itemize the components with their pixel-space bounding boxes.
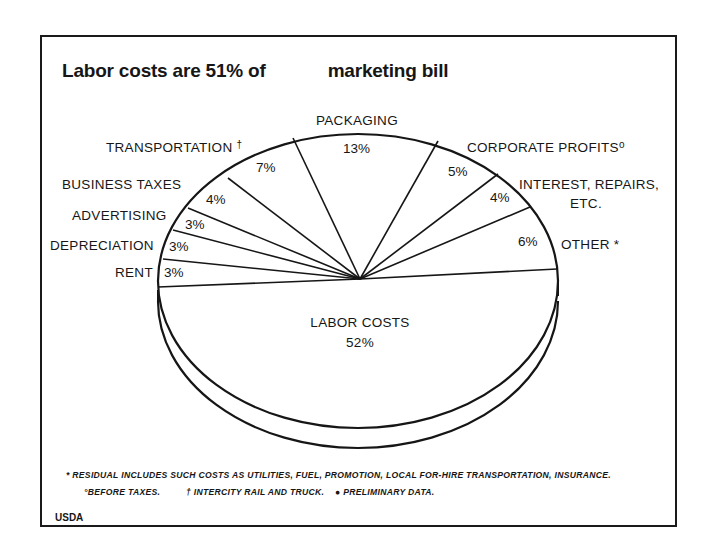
pct-advertising: 3% [185, 217, 205, 233]
pct-transportation: 7% [256, 160, 276, 176]
label-other-text: OTHER [561, 237, 610, 252]
pct-rent: 3% [164, 265, 184, 281]
label-labor-costs-text: LABOR COSTS [290, 313, 430, 333]
pct-other: 6% [518, 234, 538, 250]
pct-packaging: 13% [343, 141, 370, 157]
pct-interest: 4% [490, 190, 510, 206]
label-packaging: PACKAGING [316, 113, 398, 129]
pct-labor-costs: 52% [290, 333, 430, 353]
footnote-residual: * RESIDUAL INCLUDES SUCH COSTS AS UTILIT… [66, 470, 611, 480]
footnote-preliminary: ● PRELIMINARY DATA. [335, 487, 435, 497]
source-label: USDA [55, 512, 83, 523]
pie-top-face [158, 134, 558, 428]
pct-business-taxes: 4% [206, 192, 226, 208]
label-depreciation: DEPRECIATION [50, 238, 154, 254]
footnote-intercity: † INTERCITY RAIL AND TRUCK. [186, 487, 324, 497]
pct-depreciation: 3% [169, 239, 189, 255]
label-corporate-profits: CORPORATE PROFITSo [467, 137, 625, 156]
label-labor-costs: LABOR COSTS 52% [290, 313, 430, 353]
asterisk-mark-icon: * [614, 237, 620, 252]
label-corporate-profits-text: CORPORATE PROFITS [467, 140, 619, 155]
footnote-before-taxes: °BEFORE TAXES. [84, 487, 160, 497]
label-advertising: ADVERTISING [72, 208, 167, 224]
pct-corporate-profits: 5% [448, 164, 468, 180]
label-other: OTHER * [561, 237, 619, 253]
degree-mark-icon: o [619, 139, 625, 150]
label-interest-etc: ETC. [570, 196, 602, 212]
label-rent: RENT [115, 265, 153, 281]
label-interest-repairs: INTEREST, REPAIRS, [519, 177, 659, 193]
label-business-taxes: BUSINESS TAXES [62, 177, 181, 193]
dagger-mark-icon: † [237, 139, 243, 150]
label-transportation-text: TRANSPORTATION [106, 140, 232, 155]
label-transportation: TRANSPORTATION † [106, 137, 242, 156]
